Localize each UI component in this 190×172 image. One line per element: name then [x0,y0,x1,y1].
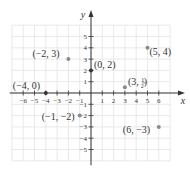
x-tick-label: −4 [42,97,50,105]
y-tick-label: −5 [80,146,88,154]
x-axis-label: x [180,95,186,106]
y-tick-label: 4 [84,44,88,52]
y-axis-arrow-icon [89,10,94,17]
data-point [78,114,82,118]
y-tick-label: 2 [84,67,88,75]
data-point [157,125,161,129]
data-point [123,85,127,89]
x-tick-label: −5 [31,97,39,105]
point-label: (6, −3) [123,124,150,136]
point-label: (0, 2) [94,59,116,71]
y-axis-label: y [80,9,86,20]
y-tick-label: −1 [80,101,88,109]
x-tick-label: 6 [157,97,161,105]
y-tick-label: −3 [80,123,88,131]
x-tick-label: −2 [65,97,73,105]
y-tick-label: −4 [80,135,88,143]
y-tick-label: 1 [84,78,88,86]
data-point [44,91,48,95]
point-label: (5, 4) [150,46,172,58]
point-label: (−2, 3) [32,48,59,60]
x-tick-label: −3 [53,97,61,105]
x-tick-label: 2 [112,97,116,105]
x-tick-label: −6 [19,97,27,105]
x-tick-label: 5 [146,97,150,105]
x-tick-label: 4 [134,97,138,105]
data-point [89,68,93,72]
y-tick-label: 3 [84,56,88,64]
point-label: (−4, 0) [13,80,40,92]
x-tick-label: 1 [101,97,105,105]
coordinate-plane-svg: xy −6−5−4−3−2−1123456−5−4−3−2−112345 (−2… [0,0,190,172]
point-label: (−1, −2) [42,111,75,123]
y-tick-label: 5 [84,33,88,41]
coordinate-plane: xy −6−5−4−3−2−1123456−5−4−3−2−112345 (−2… [0,0,190,172]
data-point [66,57,70,61]
x-tick-label: 3 [123,97,127,105]
